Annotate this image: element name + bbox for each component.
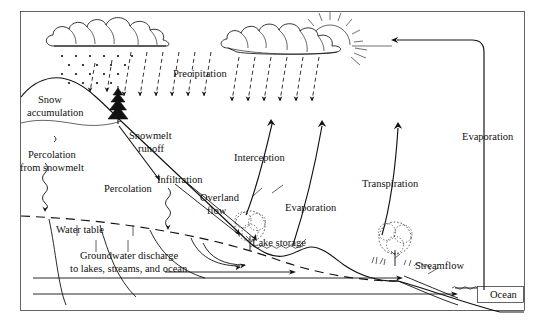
label-percolation: Percolation	[104, 183, 153, 194]
hydrologic-cycle-figure: Precipitation Snow accumulation Percolat…	[0, 0, 541, 334]
label-evaporation-ocean: Evaporation	[462, 131, 514, 142]
label-lake-storage: Lake storage	[252, 237, 306, 248]
label-overland-flow-line1: Overland	[200, 192, 240, 203]
snowflake-icon-group	[61, 55, 133, 84]
ocean-evaporation-arrow	[391, 37, 484, 290]
label-ocean: Ocean	[490, 289, 518, 300]
rain-icon-right-group	[230, 57, 319, 101]
label-precipitation: Precipitation	[173, 68, 227, 79]
interception-arrow	[246, 119, 275, 215]
evaporation-lake-arrow	[293, 120, 326, 245]
label-percolation-from-snowmelt-line1: Percolation	[28, 149, 77, 160]
hydrologic-cycle-diagram: Precipitation Snow accumulation Percolat…	[0, 0, 541, 334]
label-overland-flow-line2: flow	[207, 205, 227, 216]
label-snowmelt-runoff-line2: runoff	[138, 143, 165, 154]
label-snow-accumulation-line1: Snow	[38, 94, 62, 105]
percolation-from-snowmelt-arrow	[42, 136, 56, 212]
label-snow-accumulation-line2: accumulation	[27, 107, 84, 118]
label-streamflow: Streamflow	[415, 260, 464, 271]
label-snowmelt-runoff-line1: Snowmelt	[129, 130, 172, 141]
label-groundwater-discharge-line1: Groundwater discharge	[80, 250, 178, 261]
label-interception: Interception	[234, 152, 285, 163]
label-water-table: Water table	[56, 224, 104, 235]
cloud-icon-left	[46, 18, 168, 46]
label-transpiration: Transpiration	[362, 178, 419, 189]
label-evaporation-lake: Evaporation	[285, 202, 337, 213]
percolation-arrow	[165, 188, 170, 230]
label-groundwater-discharge-line2: to lakes, streams, and ocean	[70, 263, 188, 274]
label-percolation-from-snowmelt-line2: from snowmelt	[20, 162, 84, 173]
lake-storage-water	[250, 243, 398, 281]
label-infiltration: Infiltration	[157, 174, 203, 185]
conifer-tree-icon	[108, 86, 128, 124]
cloud-icon-right	[221, 24, 340, 55]
